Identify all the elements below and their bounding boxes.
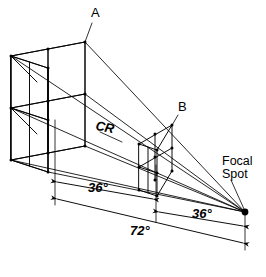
dimension-label-total-72: 72° xyxy=(130,224,150,238)
focal-spot-marker xyxy=(242,209,249,216)
label-focal-spot-line2: Spot xyxy=(222,168,248,181)
grid-a-faces xyxy=(11,42,122,172)
grid-nodes xyxy=(10,41,174,198)
dimension-label-right-36: 36° xyxy=(192,207,212,221)
extension-lines xyxy=(55,120,245,250)
leader-a xyxy=(85,23,92,42)
diagram-canvas: A B CR Focal Spot 36° 36° 72° xyxy=(0,0,266,277)
leader-lines xyxy=(85,23,244,209)
label-object-a: A xyxy=(91,6,100,20)
label-object-b: B xyxy=(178,100,187,114)
dimension-label-left-36: 36° xyxy=(88,181,108,195)
label-central-ray: CR xyxy=(94,119,115,136)
